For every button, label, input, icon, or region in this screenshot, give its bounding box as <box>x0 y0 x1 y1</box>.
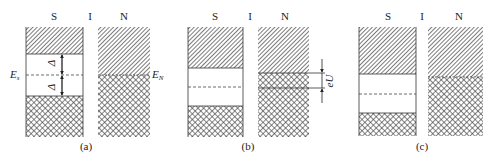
occupied-states-region <box>359 113 416 136</box>
empty-states-region <box>188 27 243 68</box>
label-s: S <box>212 10 218 22</box>
fermi-n-label: EN <box>151 68 164 82</box>
occupied-states-region <box>258 73 309 137</box>
superconductor-box: Δ Δ <box>26 27 83 137</box>
label-s: S <box>385 10 391 22</box>
label-i: I <box>420 10 424 22</box>
label-n: N <box>455 10 463 22</box>
label-s: S <box>51 10 57 22</box>
occupied-states-region <box>428 77 483 136</box>
panel-caption: (a) <box>80 140 93 153</box>
delta-label-lower: Δ <box>45 84 57 91</box>
energy-gap-region <box>359 74 416 113</box>
label-n: N <box>120 10 128 22</box>
normal-metal-box <box>258 27 325 137</box>
panel-b: S I N eU (b) <box>188 10 335 153</box>
normal-metal-box <box>428 27 483 136</box>
panel-a: S I N Δ Δ Es EN (a) <box>9 10 164 153</box>
occupied-states-region <box>26 96 83 137</box>
panel-c: S I N (c) <box>359 10 483 153</box>
label-i: I <box>88 10 92 22</box>
superconductor-box <box>359 27 416 136</box>
fermi-s-label: Es <box>9 68 20 82</box>
occupied-states-region <box>188 106 243 137</box>
delta-label-upper: Δ <box>45 60 57 67</box>
label-n: N <box>281 10 289 22</box>
empty-states-region <box>26 27 83 54</box>
empty-states-region <box>428 27 483 77</box>
panel-caption: (b) <box>242 140 255 153</box>
empty-states-region <box>258 27 309 73</box>
normal-metal-box <box>98 27 150 137</box>
bias-dimension: eU <box>322 59 335 103</box>
superconductor-box <box>188 27 243 137</box>
occupied-states-region <box>98 75 150 137</box>
panel-caption: (c) <box>416 140 429 153</box>
empty-states-region <box>359 27 416 74</box>
label-i: I <box>248 10 252 22</box>
sin-junction-diagram: S I N Δ Δ Es EN (a) <box>0 0 495 162</box>
bias-label: eU <box>323 74 335 88</box>
empty-states-region <box>98 27 150 75</box>
